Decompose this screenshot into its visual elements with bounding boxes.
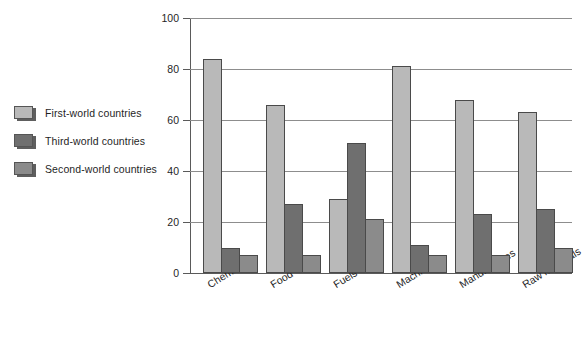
- bar: [221, 248, 240, 274]
- bar: [203, 59, 222, 273]
- bar: [392, 66, 411, 273]
- bar: [266, 105, 285, 273]
- bar: [491, 255, 510, 273]
- bar-chart: First-world countriesThird-world countri…: [0, 0, 582, 347]
- bar: [302, 255, 321, 273]
- bar: [428, 255, 447, 273]
- bar: [410, 245, 429, 273]
- bar: [518, 112, 537, 273]
- bar: [347, 143, 366, 273]
- x-axis-labels: ChemicalsFoodFuelsMachineryManufacturesR…: [0, 0, 582, 347]
- bar: [554, 248, 573, 274]
- bar: [455, 100, 474, 273]
- bar: [284, 204, 303, 273]
- bar: [329, 199, 348, 273]
- bar: [239, 255, 258, 273]
- bar: [365, 219, 384, 273]
- bar: [536, 209, 555, 273]
- bar: [473, 214, 492, 273]
